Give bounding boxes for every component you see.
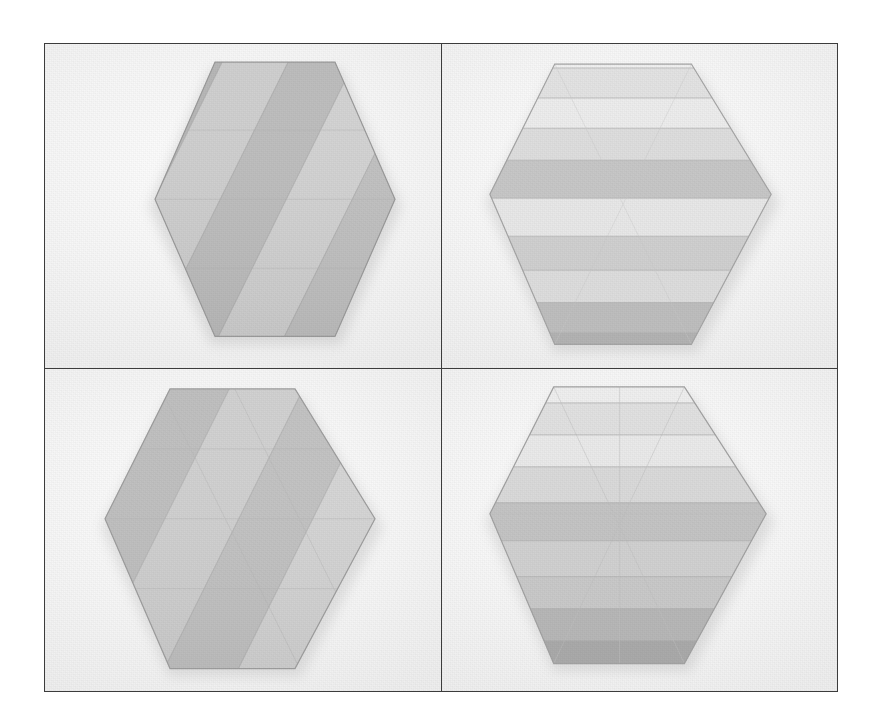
panel-cell-bottom-right [441,368,837,692]
panel-cell-bottom-left [45,368,441,692]
paper-grain-overlay [442,44,837,368]
figure-panel [44,43,838,692]
panel-cell-top-left [45,44,441,368]
paper-grain-overlay [45,369,441,692]
paper-grain-overlay [45,44,441,368]
panel-cell-top-right [441,44,837,368]
paper-grain-overlay [442,369,837,692]
